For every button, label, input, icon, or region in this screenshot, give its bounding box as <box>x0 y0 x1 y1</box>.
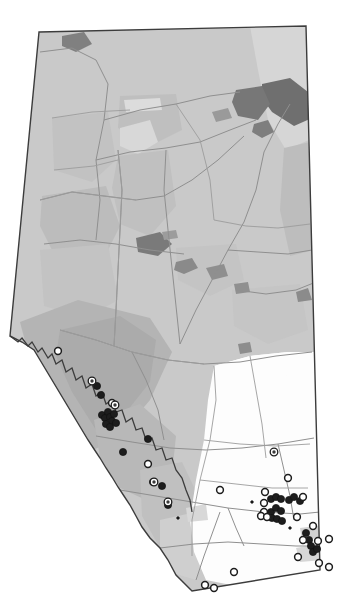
marker-filled-circle <box>144 435 151 442</box>
marker-hollow-circle <box>145 461 152 468</box>
marker-target-dot <box>152 480 155 483</box>
marker-filled-circle <box>158 482 165 489</box>
marker-hollow-circle <box>211 585 218 592</box>
map-svg <box>0 0 346 603</box>
distribution-map-root <box>0 0 346 603</box>
marker-tiny-dot <box>177 517 180 520</box>
marker-filled-circle <box>119 448 126 455</box>
marker-tiny-dot <box>289 527 292 530</box>
marker-hollow-circle <box>264 514 271 521</box>
marker-hollow-circle <box>300 537 307 544</box>
marker-target-dot <box>272 450 275 453</box>
marker-filled-circle <box>97 391 104 398</box>
marker-target-dot <box>113 403 116 406</box>
marker-filled-circle <box>112 419 119 426</box>
marker-hollow-circle <box>300 494 307 501</box>
marker-hollow-circle <box>326 536 333 543</box>
marker-hollow-circle <box>316 560 323 567</box>
lake-cold <box>238 342 252 354</box>
marker-filled-circle <box>110 410 117 417</box>
marker-hollow-circle <box>202 582 209 589</box>
marker-filled-circle <box>277 507 284 514</box>
marker-hollow-circle <box>294 514 301 521</box>
marker-tiny-dot <box>251 501 254 504</box>
marker-filled-circle <box>277 495 284 502</box>
lake-small-east <box>234 282 250 294</box>
marker-target-dot <box>166 500 169 503</box>
marker-hollow-circle <box>310 523 317 530</box>
marker-hollow-circle <box>55 348 62 355</box>
marker-hollow-circle <box>217 487 224 494</box>
marker-hollow-circle <box>326 564 333 571</box>
marker-filled-circle <box>313 545 320 552</box>
marker-filled-circle <box>302 529 309 536</box>
marker-hollow-circle <box>231 569 238 576</box>
marker-hollow-circle <box>262 489 269 496</box>
marker-filled-circle <box>278 517 285 524</box>
province-body <box>0 0 346 603</box>
marker-hollow-circle <box>295 554 302 561</box>
marker-hollow-circle <box>285 475 292 482</box>
marker-target-dot <box>90 379 93 382</box>
marker-hollow-circle <box>261 500 268 507</box>
marker-hollow-circle <box>315 538 322 545</box>
